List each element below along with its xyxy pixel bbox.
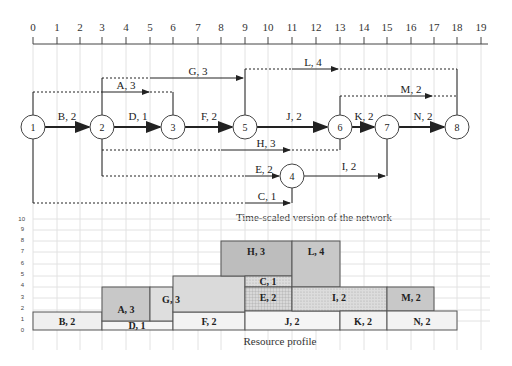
activity-label-m: M, 2 xyxy=(401,83,422,95)
svg-text:L, 4: L, 4 xyxy=(308,246,325,257)
node-3: 3 xyxy=(161,115,185,139)
svg-text:6: 6 xyxy=(21,260,25,266)
time-tick: 13 xyxy=(335,21,347,33)
svg-text:C, 1: C, 1 xyxy=(259,276,276,287)
svg-text:4: 4 xyxy=(290,171,295,182)
svg-text:G, 3: G, 3 xyxy=(162,294,180,305)
network-caption: Time-scaled version of the network xyxy=(236,211,393,223)
svg-text:6: 6 xyxy=(338,122,343,133)
svg-text:H, 3: H, 3 xyxy=(247,246,265,257)
time-tick: 16 xyxy=(406,21,418,33)
svg-text:2: 2 xyxy=(21,305,25,311)
activity-label-c: C, 1 xyxy=(258,190,276,202)
svg-text:M, 2: M, 2 xyxy=(401,292,420,303)
activity-label-l: L, 4 xyxy=(304,56,322,68)
time-tick: 12 xyxy=(311,21,322,33)
activity-label-j: J, 2 xyxy=(286,110,301,122)
svg-text:K, 2: K, 2 xyxy=(354,316,372,327)
time-tick: 8 xyxy=(218,21,224,33)
svg-text:I, 2: I, 2 xyxy=(332,292,346,303)
svg-text:0: 0 xyxy=(21,327,25,333)
svg-text:9: 9 xyxy=(21,226,25,232)
time-tick: 14 xyxy=(359,21,371,33)
svg-text:3: 3 xyxy=(171,122,176,133)
node-6: 6 xyxy=(328,115,352,139)
diagram-canvas: 0 1 2 3 4 5 6 7 8 9 10 11 12 13 14 15 16… xyxy=(0,0,512,366)
time-axis: 0 1 2 3 4 5 6 7 8 9 10 11 12 13 14 15 16… xyxy=(30,21,488,44)
time-tick: 2 xyxy=(77,21,83,33)
activity-label-f: F, 2 xyxy=(201,110,217,122)
node-2: 2 xyxy=(90,115,114,139)
resource-blocks xyxy=(33,241,457,330)
time-tick: 5 xyxy=(147,21,153,33)
resource-y-axis: 0 1 2 3 4 5 6 7 8 9 10 xyxy=(18,216,25,333)
node-7: 7 xyxy=(375,115,399,139)
svg-text:B, 2: B, 2 xyxy=(59,316,76,327)
time-tick: 1 xyxy=(54,21,60,33)
svg-text:E, 2: E, 2 xyxy=(260,292,277,303)
time-tick: 6 xyxy=(170,21,176,33)
node-4: 4 xyxy=(280,164,304,188)
node-1: 1 xyxy=(21,115,45,139)
time-tick: 4 xyxy=(123,21,129,33)
svg-text:7: 7 xyxy=(385,122,390,133)
time-tick: 15 xyxy=(382,21,394,33)
svg-text:2: 2 xyxy=(100,122,105,133)
svg-text:5: 5 xyxy=(243,122,248,133)
time-tick: 19 xyxy=(476,21,488,33)
svg-text:1: 1 xyxy=(21,316,25,322)
resource-caption: Resource profile xyxy=(244,335,317,347)
resource-block-g-upper xyxy=(173,276,245,312)
svg-text:D, 1: D, 1 xyxy=(128,320,145,331)
node-8: 8 xyxy=(445,115,469,139)
svg-text:F, 2: F, 2 xyxy=(201,316,216,327)
time-tick: 0 xyxy=(30,21,36,33)
svg-text:10: 10 xyxy=(18,216,25,222)
activity-label-k: K, 2 xyxy=(355,110,374,122)
activity-label-n: N, 2 xyxy=(414,110,433,122)
time-tick: 3 xyxy=(99,21,105,33)
time-tick: 9 xyxy=(242,21,248,33)
activity-label-g: G, 3 xyxy=(189,65,208,77)
svg-text:N, 2: N, 2 xyxy=(413,316,430,327)
svg-text:4: 4 xyxy=(21,282,25,288)
time-tick: 18 xyxy=(452,21,464,33)
activity-label-h: H, 3 xyxy=(257,137,276,149)
node-5: 5 xyxy=(233,115,257,139)
svg-text:7: 7 xyxy=(21,248,25,254)
svg-text:5: 5 xyxy=(21,271,25,277)
time-tick: 17 xyxy=(429,21,441,33)
activity-label-e: E, 2 xyxy=(255,163,273,175)
activity-label-d: D, 1 xyxy=(129,110,148,122)
svg-text:A, 3: A, 3 xyxy=(117,304,134,315)
activity-label-a: A, 3 xyxy=(117,79,136,91)
svg-text:1: 1 xyxy=(31,122,36,133)
svg-text:3: 3 xyxy=(21,294,25,300)
svg-text:8: 8 xyxy=(455,122,460,133)
activity-label-b: B, 2 xyxy=(58,110,76,122)
activity-label-i: I, 2 xyxy=(342,160,357,172)
svg-text:J, 2: J, 2 xyxy=(285,316,300,327)
time-tick: 10 xyxy=(263,21,275,33)
time-tick: 7 xyxy=(195,21,201,33)
svg-text:8: 8 xyxy=(21,237,25,243)
time-tick: 11 xyxy=(287,21,298,33)
